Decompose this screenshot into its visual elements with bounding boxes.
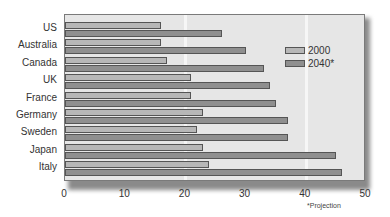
y-label-us: US [43, 22, 57, 33]
bar-japan-2000 [65, 144, 203, 151]
y-label-germany: Germany [16, 109, 57, 120]
bar-uk-2040 [65, 82, 270, 89]
bar-germany-2040 [65, 117, 288, 124]
y-label-italy: Italy [39, 161, 57, 172]
plot-area [64, 14, 365, 181]
legend-label-2000: 2000 [308, 45, 330, 56]
x-tick-20: 20 [179, 188, 190, 199]
y-label-japan: Japan [30, 144, 57, 155]
bar-australia-2040 [65, 47, 246, 54]
x-tick-50: 50 [359, 188, 370, 199]
bar-japan-2040 [65, 152, 336, 159]
bar-uk-2000 [65, 74, 191, 81]
x-tick-0: 0 [61, 188, 67, 199]
y-label-sweden: Sweden [21, 126, 57, 137]
bar-france-2000 [65, 92, 191, 99]
bar-us-2000 [65, 22, 161, 29]
bar-canada-2000 [65, 57, 167, 64]
bar-us-2040 [65, 30, 222, 37]
legend-item-2040: 2040* [285, 57, 334, 69]
x-tick-10: 10 [119, 188, 130, 199]
legend-swatch-2000 [285, 47, 305, 54]
bar-sweden-2000 [65, 126, 197, 133]
bar-sweden-2040 [65, 134, 288, 141]
y-label-france: France [26, 92, 57, 103]
bar-italy-2040 [65, 169, 342, 176]
x-tick-30: 30 [239, 188, 250, 199]
bar-canada-2040 [65, 65, 264, 72]
y-label-australia: Australia [18, 39, 57, 50]
legend-swatch-2040 [285, 60, 305, 67]
y-label-canada: Canada [22, 57, 57, 68]
x-tick-40: 40 [299, 188, 310, 199]
legend-label-2040: 2040* [308, 58, 334, 69]
bar-germany-2000 [65, 109, 203, 116]
bar-france-2040 [65, 100, 276, 107]
bar-italy-2000 [65, 161, 209, 168]
legend-item-2000: 2000 [285, 44, 334, 56]
legend: 2000 2040* [285, 44, 334, 70]
projection-note: *Projection [307, 202, 341, 209]
y-label-uk: UK [43, 74, 57, 85]
bar-australia-2000 [65, 39, 161, 46]
